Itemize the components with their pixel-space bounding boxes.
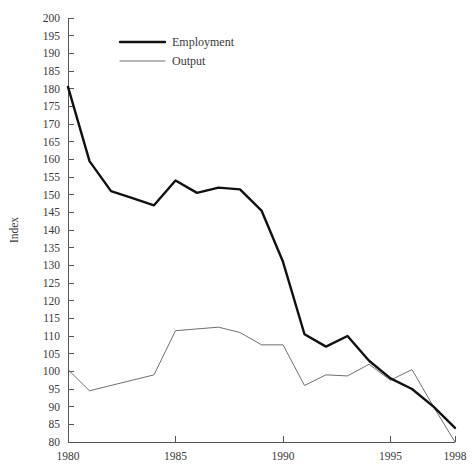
- chart-legend: Employment Output: [120, 35, 235, 68]
- chart-canvas: 8085909510010511011512012513013514014515…: [0, 0, 474, 474]
- y-tick-label: 185: [43, 65, 61, 77]
- y-tick-label: 145: [43, 206, 61, 218]
- x-tick-label: 1980: [57, 450, 80, 462]
- y-tick-label: 140: [43, 224, 61, 236]
- y-axis-tick-labels: 8085909510010511011512012513013514014515…: [43, 12, 61, 448]
- y-tick-label: 190: [43, 47, 61, 59]
- x-axis-tick-labels: 19801985199019951998: [57, 450, 467, 462]
- legend-label-employment: Employment: [172, 35, 235, 49]
- y-tick-label: 150: [43, 189, 61, 201]
- x-axis-tick-marks: [68, 436, 455, 442]
- y-axis-tick-marks: [68, 18, 74, 442]
- y-tick-label: 175: [43, 100, 61, 112]
- y-tick-label: 115: [43, 312, 60, 324]
- y-tick-label: 200: [43, 12, 61, 24]
- y-tick-label: 90: [49, 401, 61, 413]
- y-tick-label: 125: [43, 277, 61, 289]
- y-tick-label: 110: [43, 330, 60, 342]
- y-tick-label: 155: [43, 171, 61, 183]
- y-tick-label: 130: [43, 259, 61, 271]
- y-tick-label: 180: [43, 83, 61, 95]
- y-tick-label: 135: [43, 242, 61, 254]
- x-tick-label: 1985: [164, 450, 187, 462]
- y-axis-title: Index: [8, 217, 20, 243]
- y-tick-label: 160: [43, 153, 61, 165]
- y-tick-label: 100: [43, 365, 61, 377]
- y-tick-label: 165: [43, 136, 61, 148]
- x-tick-label: 1998: [444, 450, 467, 462]
- y-tick-label: 105: [43, 348, 61, 360]
- x-tick-label: 1990: [272, 450, 295, 462]
- line-chart: 8085909510010511011512012513013514014515…: [0, 0, 474, 474]
- x-tick-label: 1995: [379, 450, 402, 462]
- y-tick-label: 170: [43, 118, 61, 130]
- y-tick-label: 80: [49, 436, 61, 448]
- y-tick-label: 95: [49, 383, 61, 395]
- y-tick-label: 120: [43, 295, 61, 307]
- y-tick-label: 195: [43, 30, 61, 42]
- legend-label-output: Output: [172, 54, 206, 68]
- y-tick-label: 85: [49, 418, 61, 430]
- series-line-output: [68, 327, 455, 442]
